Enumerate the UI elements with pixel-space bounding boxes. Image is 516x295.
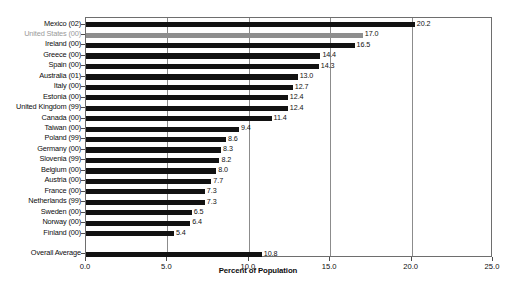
- bar: [86, 189, 205, 194]
- bar-value-label: 8.6: [228, 134, 238, 144]
- bar: [86, 53, 320, 58]
- bar-value-label: 5.4: [176, 228, 186, 238]
- bar-value-label: 17.0: [365, 29, 379, 39]
- category-label: Spain (00): [1, 60, 85, 70]
- category-label: United Kingdom (99): [1, 102, 85, 112]
- bar-chart: Mexico (02)United States (00)Ireland (00…: [0, 0, 516, 295]
- bar-value-label: 7.3: [207, 186, 217, 196]
- bar: [86, 147, 221, 152]
- bar-value-label: 8.2: [221, 155, 231, 165]
- bar-value-label: 8.0: [218, 165, 228, 175]
- bar-row: 14.4: [86, 51, 491, 61]
- plot-area: 20.217.016.514.414.313.012.712.412.411.4…: [85, 17, 492, 257]
- category-label: United States (00): [1, 29, 85, 39]
- category-label: Netherlands (99): [1, 196, 85, 206]
- bar-row: 12.4: [86, 93, 491, 103]
- category-label: Canada (00): [1, 113, 85, 123]
- x-axis-tick: [329, 257, 330, 261]
- bar: [86, 43, 355, 48]
- bar-row: 7.3: [86, 197, 491, 207]
- bar-value-label: 6.5: [194, 207, 204, 217]
- category-label: Mexico (02): [1, 19, 85, 29]
- bar: [86, 127, 239, 132]
- bar-row: 8.0: [86, 166, 491, 176]
- x-axis-tick: [166, 257, 167, 261]
- bar: [86, 221, 190, 226]
- bar-row: 16.5: [86, 40, 491, 50]
- bar: [86, 106, 288, 111]
- bar-row: 7.7: [86, 176, 491, 186]
- bar-row: 8.2: [86, 155, 491, 165]
- x-axis-tick: [248, 257, 249, 261]
- category-label: Estonia (00): [1, 92, 85, 102]
- bar-value-label: 13.0: [300, 71, 314, 81]
- bar-value-label: 12.7: [295, 82, 309, 92]
- category-label: Italy (00): [1, 81, 85, 91]
- category-label-column: Mexico (02)United States (00)Ireland (00…: [0, 17, 85, 257]
- bar-value-label: 9.4: [241, 123, 251, 133]
- bar-value-label: 6.4: [192, 217, 202, 227]
- bar: [86, 231, 174, 236]
- bar-value-label: 7.3: [207, 197, 217, 207]
- bar: [86, 116, 272, 121]
- bar: [86, 95, 288, 100]
- x-axis-tick: [411, 257, 412, 261]
- bar: [86, 200, 205, 205]
- bar-row: 12.4: [86, 103, 491, 113]
- bar: [86, 179, 211, 184]
- bar-row: 9.4: [86, 124, 491, 134]
- bar: [86, 22, 415, 27]
- bar: [86, 168, 216, 173]
- bar-value-label: 7.7: [213, 176, 223, 186]
- bar: [86, 64, 319, 69]
- bar: [86, 74, 298, 79]
- category-label: Sweden (00): [1, 207, 85, 217]
- bar-row: 13.0: [86, 72, 491, 82]
- bar-row: 5.4: [86, 229, 491, 239]
- bar-value-label: 14.3: [321, 61, 335, 71]
- category-label: Poland (99): [1, 133, 85, 143]
- category-label: Greece (00): [1, 50, 85, 60]
- category-label: Australia (01): [1, 71, 85, 81]
- x-axis-tick: [492, 257, 493, 261]
- bar-row: 6.5: [86, 208, 491, 218]
- category-label: Taiwan (00): [1, 123, 85, 133]
- bar-row: 8.6: [86, 134, 491, 144]
- category-label: Belgium (00): [1, 165, 85, 175]
- bar-value-label: 16.5: [357, 40, 371, 50]
- bar-value-label: 20.2: [417, 19, 431, 29]
- category-label: Finland (00): [1, 228, 85, 238]
- x-axis-title: Percent of Population: [0, 266, 516, 275]
- category-label: Overall Average: [1, 248, 85, 258]
- bar-row: 8.3: [86, 145, 491, 155]
- bar: [86, 210, 192, 215]
- bar-row: 17.0: [86, 30, 491, 40]
- bar-value-label: 8.3: [223, 144, 233, 154]
- bar: [86, 158, 219, 163]
- x-axis-tick: [85, 257, 86, 261]
- bar-value-label: 12.4: [290, 103, 304, 113]
- category-label: Slovenia (99): [1, 154, 85, 164]
- bar-row: 6.4: [86, 218, 491, 228]
- bar-row: 12.7: [86, 82, 491, 92]
- bar-value-label: 14.4: [322, 50, 336, 60]
- bar-row: 11.4: [86, 114, 491, 124]
- bar: [86, 85, 293, 90]
- category-label: Germany (00): [1, 144, 85, 154]
- bar-row: 14.3: [86, 61, 491, 71]
- bar: [86, 137, 226, 142]
- category-label: Austria (00): [1, 175, 85, 185]
- category-label: Ireland (00): [1, 39, 85, 49]
- category-label: France (00): [1, 186, 85, 196]
- bar-row: 20.2: [86, 20, 491, 30]
- bar: [86, 33, 363, 38]
- bar-row: 7.3: [86, 187, 491, 197]
- category-label: Norway (00): [1, 217, 85, 227]
- bar-value-label: 12.4: [290, 92, 304, 102]
- bar-value-label: 11.4: [274, 113, 287, 123]
